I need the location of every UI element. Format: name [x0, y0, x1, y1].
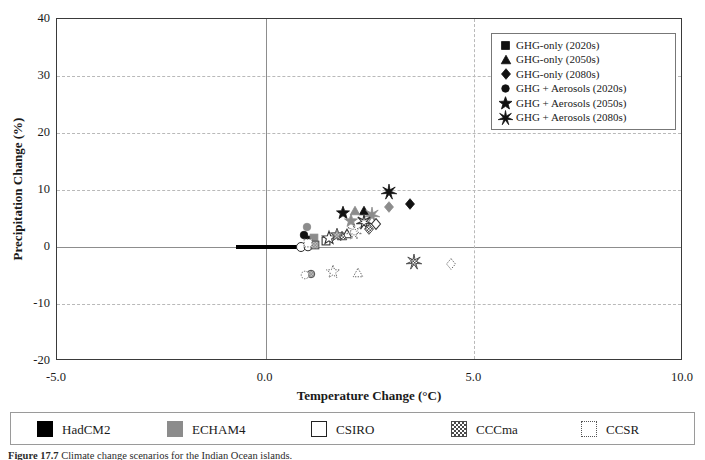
burst-icon — [497, 109, 514, 127]
data-point — [325, 264, 342, 281]
data-point — [321, 229, 338, 246]
data-point — [382, 200, 396, 214]
model-swatch-ccsr — [581, 421, 597, 437]
y-tick-label: 40 — [8, 12, 50, 25]
x-tick-label: -5.0 — [46, 371, 66, 384]
model-legend-item-echam4: ECHAM4 — [167, 421, 245, 437]
x-axis-title: Temperature Change (°C) — [56, 388, 682, 404]
model-legend-bar: HadCM2ECHAM4CSIROCCCmaCCSR — [10, 412, 695, 445]
data-point — [299, 267, 312, 280]
marker-legend-item-aer_2020: GHG + Aerosols (2020s) — [497, 82, 668, 97]
data-point — [444, 257, 458, 271]
model-swatch-csiro — [311, 421, 327, 437]
circle-icon — [497, 82, 514, 95]
model-legend-item-ccsr: CCSR — [581, 421, 639, 437]
y-tick-label: 30 — [8, 69, 50, 82]
figure-caption: Figure 17.7 Climate change scenarios for… — [8, 450, 698, 460]
baseline-end-marker — [296, 242, 306, 252]
marker-legend: GHG-only (2020s) GHG-only (2050s) GHG-on… — [491, 33, 676, 130]
marker-legend-item-ghg_2020: GHG-only (2020s) — [497, 38, 668, 53]
data-point — [403, 197, 417, 211]
data-point — [348, 204, 362, 218]
model-legend-item-csiro: CSIRO — [311, 421, 374, 437]
data-point — [405, 253, 423, 271]
x-tick-label: 10.0 — [671, 371, 693, 384]
data-point — [363, 206, 381, 224]
marker-legend-label: GHG + Aerosols (2020s) — [514, 83, 626, 94]
marker-legend-item-ghg_2050: GHG-only (2050s) — [497, 53, 668, 68]
data-point — [351, 266, 365, 280]
model-swatch-cccma — [451, 421, 467, 437]
gridline-x-0 — [266, 19, 267, 359]
marker-legend-label: GHG-only (2020s) — [514, 40, 599, 51]
data-point — [380, 183, 398, 201]
data-point — [300, 220, 313, 233]
gridline-y--10 — [57, 304, 681, 305]
square-icon — [497, 39, 514, 52]
data-point — [308, 237, 321, 250]
y-tick-label: -20 — [8, 354, 50, 367]
gridline-y-0 — [57, 247, 681, 248]
gridline-y-10 — [57, 190, 681, 191]
marker-legend-label: GHG + Aerosols (2080s) — [514, 112, 626, 123]
x-tick-label: 0.0 — [257, 371, 273, 384]
marker-legend-label: GHG-only (2080s) — [514, 69, 599, 80]
marker-legend-label: GHG + Aerosols (2050s) — [514, 98, 626, 109]
triangle-icon — [497, 53, 514, 67]
figure-number: Figure 17.7 — [8, 450, 59, 460]
baseline-bar — [236, 245, 301, 249]
data-point — [343, 213, 360, 230]
figure-caption-text: Climate change scenarios for the Indian … — [61, 450, 292, 460]
gridline-y-20 — [57, 133, 681, 134]
data-point — [329, 227, 346, 244]
data-point — [320, 234, 333, 247]
model-legend-label: ECHAM4 — [183, 423, 245, 436]
data-point — [369, 217, 383, 231]
model-legend-label: CSIRO — [327, 423, 374, 436]
data-point — [345, 223, 363, 241]
model-swatch-hadcm2 — [37, 421, 53, 437]
data-point — [298, 227, 311, 240]
model-legend-label: HadCM2 — [53, 423, 110, 436]
marker-legend-item-aer_2050: GHG + Aerosols (2050s) — [497, 96, 668, 111]
data-point — [334, 205, 351, 222]
data-point — [357, 204, 371, 218]
gridline-x-5 — [474, 19, 475, 359]
diamond-icon — [497, 67, 514, 81]
y-axis-title: Precipitation Change (%) — [10, 118, 26, 261]
model-legend-item-hadcm2: HadCM2 — [37, 421, 110, 437]
data-point — [304, 267, 317, 280]
marker-legend-label: GHG-only (2050s) — [514, 54, 599, 65]
data-point — [335, 229, 349, 243]
data-point — [355, 213, 373, 231]
model-legend-label: CCSR — [597, 423, 639, 436]
y-tick-label: -10 — [8, 297, 50, 310]
model-legend-label: CCCma — [467, 423, 518, 436]
figure-root: GHG-only (2020s) GHG-only (2050s) GHG-on… — [0, 0, 705, 460]
model-legend-item-cccma: CCCma — [451, 421, 518, 437]
plot-area: GHG-only (2020s) GHG-only (2050s) GHG-on… — [56, 18, 682, 360]
data-point — [340, 227, 354, 241]
model-swatch-echam4 — [167, 421, 183, 437]
data-point — [307, 230, 320, 243]
x-tick-label: 5.0 — [466, 371, 482, 384]
marker-legend-item-aer_2080: GHG + Aerosols (2080s) — [497, 111, 668, 126]
data-point — [362, 222, 376, 236]
marker-legend-item-ghg_2080: GHG-only (2080s) — [497, 67, 668, 82]
